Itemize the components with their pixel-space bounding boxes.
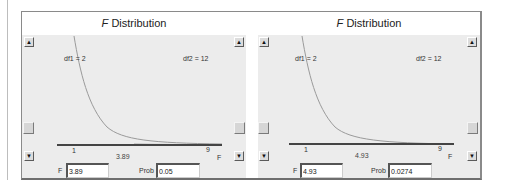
axis-max-tick: 9 (206, 146, 210, 153)
frame-border-bottom (246, 178, 258, 180)
up-arrow-icon: ▲ (236, 39, 242, 45)
up-arrow-icon: ▲ (26, 39, 32, 45)
density-curve (302, 36, 454, 144)
density-curve (74, 36, 222, 144)
f-input-label: F (58, 167, 62, 174)
prob-value-input[interactable] (388, 163, 432, 178)
df1-up-arrow-button[interactable]: ▲ (259, 37, 269, 47)
df2-scrollbar-thumb[interactable] (467, 122, 478, 134)
x-axis-line (57, 144, 222, 146)
df2-up-arrow-button[interactable]: ▲ (234, 37, 244, 47)
axis-variable-label: F (448, 153, 452, 160)
df2-scrollbar-thumb[interactable] (234, 122, 245, 134)
down-arrow-icon: ▼ (261, 153, 267, 159)
axis-min-tick: 1 (304, 146, 308, 153)
df2-down-arrow-button[interactable]: ▼ (467, 151, 477, 161)
df1-down-arrow-button[interactable]: ▼ (24, 151, 34, 161)
up-arrow-icon: ▲ (261, 39, 267, 45)
df1-label: df1 = 2 (295, 55, 317, 62)
page-margin-rule (7, 0, 8, 180)
axis-min-tick: 1 (72, 147, 76, 154)
df1-scrollbar-thumb[interactable] (23, 122, 34, 134)
critical-value-label: 4.93 (355, 152, 369, 159)
up-arrow-icon: ▲ (469, 39, 475, 45)
critical-value-label: 3.89 (116, 153, 130, 160)
axis-max-tick: 9 (438, 145, 442, 152)
df1-down-arrow-button[interactable]: ▼ (259, 151, 269, 161)
f-distribution-panel-left: F Distribution ▲ ▼ ▲ ▼ df1 = 2 df2 = 12 … (21, 11, 246, 180)
df1-up-arrow-button[interactable]: ▲ (24, 37, 34, 47)
prob-input-label: Prob (371, 167, 386, 174)
f-input-label: F (293, 167, 297, 174)
f-distribution-applets: F Distribution ▲ ▼ ▲ ▼ df1 = 2 df2 = 12 … (21, 11, 482, 180)
frame-border-top (246, 11, 258, 12)
df2-down-arrow-button[interactable]: ▼ (234, 151, 244, 161)
f-value-input[interactable] (66, 163, 109, 178)
prob-input-label: Prob (139, 167, 154, 174)
df2-up-arrow-button[interactable]: ▲ (467, 37, 477, 47)
down-arrow-icon: ▼ (236, 153, 242, 159)
df2-label: df2 = 12 (183, 55, 209, 62)
axis-variable-label: F (217, 154, 221, 161)
df1-scrollbar-thumb[interactable] (258, 122, 269, 134)
df2-label: df2 = 12 (416, 55, 442, 62)
prob-value-input[interactable] (156, 163, 200, 178)
f-value-input[interactable] (300, 163, 343, 178)
down-arrow-icon: ▼ (26, 153, 32, 159)
x-axis-line (289, 143, 454, 145)
density-curve-plot (22, 12, 247, 181)
df1-label: df1 = 2 (64, 55, 86, 62)
down-arrow-icon: ▼ (469, 153, 475, 159)
f-distribution-panel-right: F Distribution ▲ ▼ ▲ ▼ df1 = 2 df2 = 12 … (258, 11, 482, 180)
